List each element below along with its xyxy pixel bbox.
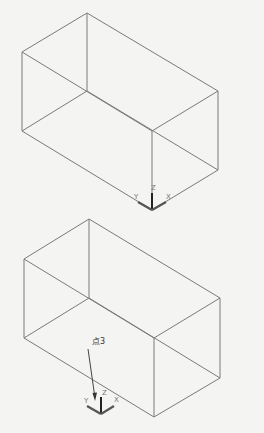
leader-line: [88, 349, 95, 398]
ucs-icon-top: Z Y X: [133, 184, 171, 210]
box-edge: [24, 298, 89, 338]
callout-label: 点3: [92, 337, 105, 346]
wireframe-box-top: [22, 13, 218, 210]
box-edge: [22, 91, 87, 131]
x-axis-label: X: [114, 396, 119, 404]
x-axis: [152, 202, 166, 210]
x-axis-label: X: [166, 193, 171, 201]
z-axis-label: Z: [102, 389, 107, 397]
y-axis: [138, 202, 152, 210]
y-axis-label: Y: [133, 193, 139, 201]
arrowhead-icon: [93, 393, 98, 402]
y-axis: [87, 406, 101, 414]
drawing-canvas: Z Y X Z Y X 点3: [0, 0, 264, 433]
box-edge: [22, 52, 218, 131]
x-axis: [101, 406, 114, 414]
y-axis-label: Y: [83, 397, 89, 405]
z-axis-label: Z: [151, 184, 156, 192]
box-edge: [24, 259, 220, 338]
wireframe-box-bottom: [24, 219, 220, 417]
